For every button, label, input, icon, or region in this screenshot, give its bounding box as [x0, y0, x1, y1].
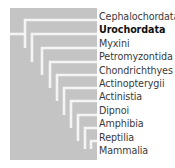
taxon-label-chondrichthyes: Chondrichthyes — [99, 64, 175, 77]
taxon-label-myxini: Myxini — [99, 37, 175, 50]
taxon-label-actinistia: Actinistia — [99, 90, 175, 103]
taxon-label-urochordata: Urochordata — [99, 23, 175, 36]
taxon-label-cephalochordata: Cephalochordata — [99, 10, 175, 23]
taxon-label-petromyzontida: Petromyzontida — [99, 50, 175, 63]
taxon-label-amphibia: Amphibia — [99, 117, 175, 130]
taxon-label-mammalia: Mammalia — [99, 144, 175, 157]
taxon-label-actinopterygii: Actinopterygii — [99, 77, 175, 90]
taxon-label-dipnoi: Dipnoi — [99, 104, 175, 117]
taxa-labels: Cephalochordata Urochordata Myxini Petro… — [99, 10, 175, 157]
taxon-label-reptilia: Reptilia — [99, 131, 175, 144]
